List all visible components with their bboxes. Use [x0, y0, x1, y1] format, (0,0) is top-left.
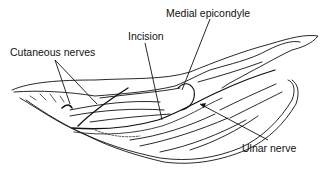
label-incision: Incision — [128, 31, 164, 42]
incision-leader — [145, 43, 162, 120]
medial-epicondyle-leader — [182, 19, 210, 90]
cutaneous-nerves-leader-1 — [55, 60, 70, 104]
ulnar-nerve-leader — [200, 104, 268, 140]
label-ulnar-nerve: Ulnar nerve — [242, 143, 296, 154]
anatomical-diagram: Medial epicondyle Incision Cutaneous ner… — [0, 0, 325, 178]
label-cutaneous-nerves: Cutaneous nerves — [10, 47, 95, 58]
label-medial-epicondyle: Medial epicondyle — [166, 8, 250, 19]
